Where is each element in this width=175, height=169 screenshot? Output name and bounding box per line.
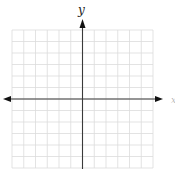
x-axis-label: x [171, 95, 175, 105]
y-axis-label: y [77, 3, 85, 17]
y-axis-up-arrow-icon [80, 19, 86, 28]
x-axis-right-arrow-icon [155, 96, 163, 102]
coordinate-plane: y x [0, 0, 175, 169]
x-axis-left-arrow-icon [3, 96, 11, 102]
